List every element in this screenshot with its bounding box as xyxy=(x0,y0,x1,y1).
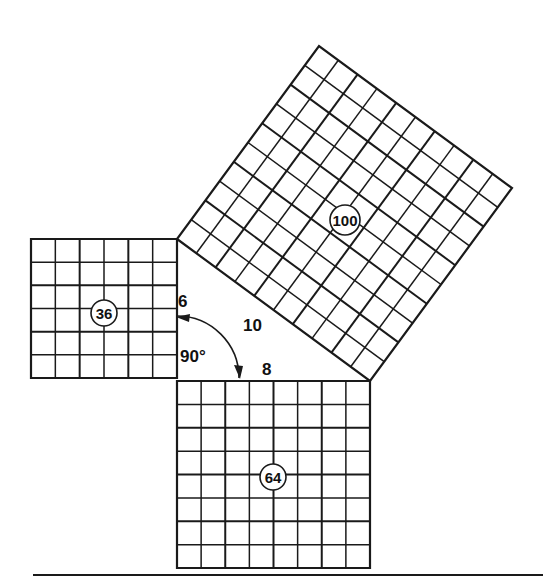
label-leg-a: 6 xyxy=(178,292,187,311)
area-badge-100: 100 xyxy=(330,205,360,235)
diagram-canvas: 3664100 610890° xyxy=(0,0,553,586)
pythagorean-diagram: 3664100 610890° xyxy=(0,0,553,586)
label-leg-b: 8 xyxy=(262,360,271,379)
badge-label-64: 64 xyxy=(265,469,282,486)
area-badge-64: 64 xyxy=(260,464,286,490)
area-badge-36: 36 xyxy=(91,300,117,326)
label-hypotenuse: 10 xyxy=(243,316,262,335)
badge-label-100: 100 xyxy=(332,212,357,229)
badge-label-36: 36 xyxy=(96,305,113,322)
side-labels-layer: 610890° xyxy=(178,292,271,379)
label-right-angle: 90° xyxy=(180,347,206,366)
